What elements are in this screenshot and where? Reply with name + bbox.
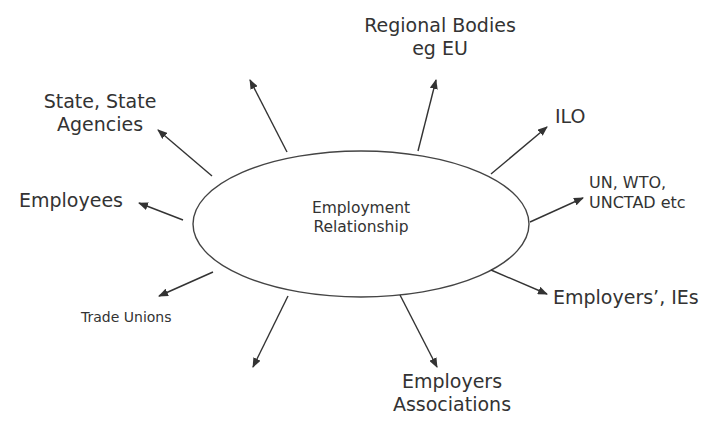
arrow-trade-unions <box>159 272 213 296</box>
node-employers-associations: Employers Associations <box>382 370 522 416</box>
node-un-wto-unctad-line1: UN, WTO, <box>589 173 686 193</box>
arrow-un-wto-unctad <box>530 198 583 222</box>
node-ilo-line1: ILO <box>555 105 585 128</box>
node-state-agencies: State, State Agencies <box>30 90 170 136</box>
node-employers-ies: Employers’, IEs <box>553 286 699 309</box>
arrow-regional-bodies <box>418 80 436 151</box>
node-ilo: ILO <box>555 105 585 128</box>
node-un-wto-unctad: UN, WTO, UNCTAD etc <box>589 173 686 213</box>
center-label-line2: Relationship <box>296 218 426 237</box>
node-employers-associations-line1: Employers <box>382 370 522 393</box>
arrow-unlabeled-top-left <box>250 80 287 152</box>
node-employees-line1: Employees <box>19 189 123 212</box>
node-trade-unions: Trade Unions <box>81 309 172 326</box>
arrow-state-agencies <box>158 130 212 176</box>
center-label-line1: Employment <box>296 199 426 218</box>
node-state-agencies-line2: Agencies <box>30 113 170 136</box>
node-regional-bodies-line2: eg EU <box>350 37 530 60</box>
node-regional-bodies-line1: Regional Bodies <box>350 14 530 37</box>
node-employers-associations-line2: Associations <box>382 393 522 416</box>
arrow-unlabeled-bottom-left <box>253 296 288 367</box>
node-employees: Employees <box>19 189 123 212</box>
arrow-employees <box>139 203 183 220</box>
node-regional-bodies: Regional Bodies eg EU <box>350 14 530 60</box>
arrow-employers-ies <box>491 270 547 294</box>
center-label: Employment Relationship <box>296 199 426 236</box>
node-trade-unions-line1: Trade Unions <box>81 309 172 326</box>
node-employers-ies-line1: Employers’, IEs <box>553 286 699 309</box>
node-un-wto-unctad-line2: UNCTAD etc <box>589 193 686 213</box>
arrow-ilo <box>491 127 547 174</box>
arrow-employers-associations <box>400 295 437 367</box>
node-state-agencies-line1: State, State <box>30 90 170 113</box>
